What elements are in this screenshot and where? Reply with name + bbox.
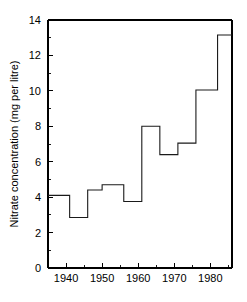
x-tick-label: 1940 — [54, 272, 78, 284]
y-axis-ticks — [48, 20, 53, 268]
y-tick-label: 14 — [29, 14, 41, 26]
x-axis-tick-labels: 19401950196019701980 — [54, 272, 223, 284]
data-series-step-line — [48, 35, 232, 217]
chart-canvas: 02468101214 19401950196019701980 Nitrate… — [0, 0, 247, 302]
plot-frame-path — [48, 20, 232, 268]
x-tick-label: 1950 — [90, 272, 114, 284]
x-tick-label: 1970 — [162, 272, 186, 284]
y-axis-title-text: Nitrate concentration (mg per litre) — [8, 61, 20, 228]
y-tick-label: 0 — [35, 262, 41, 274]
x-axis-ticks — [66, 263, 228, 268]
y-tick-label: 4 — [35, 191, 41, 203]
y-tick-label: 12 — [29, 49, 41, 61]
nitrate-concentration-step-chart: 02468101214 19401950196019701980 Nitrate… — [0, 0, 247, 302]
x-tick-label: 1980 — [198, 272, 222, 284]
y-axis-tick-labels: 02468101214 — [29, 14, 41, 274]
y-axis-title: Nitrate concentration (mg per litre) — [8, 61, 20, 228]
axis-frame — [48, 20, 232, 268]
y-tick-label: 8 — [35, 120, 41, 132]
y-tick-label: 10 — [29, 85, 41, 97]
x-tick-label: 1960 — [126, 272, 150, 284]
step-line-path — [48, 35, 232, 217]
y-tick-label: 2 — [35, 227, 41, 239]
y-tick-label: 6 — [35, 156, 41, 168]
